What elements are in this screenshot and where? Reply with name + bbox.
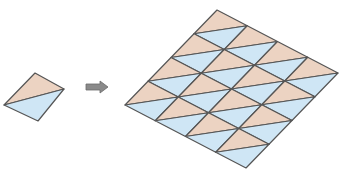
right-arrow-icon [86, 81, 108, 93]
rhombus-tiling-grid [125, 10, 338, 168]
single-rhombus-tile [4, 73, 64, 121]
tiling-diagram [0, 0, 348, 175]
